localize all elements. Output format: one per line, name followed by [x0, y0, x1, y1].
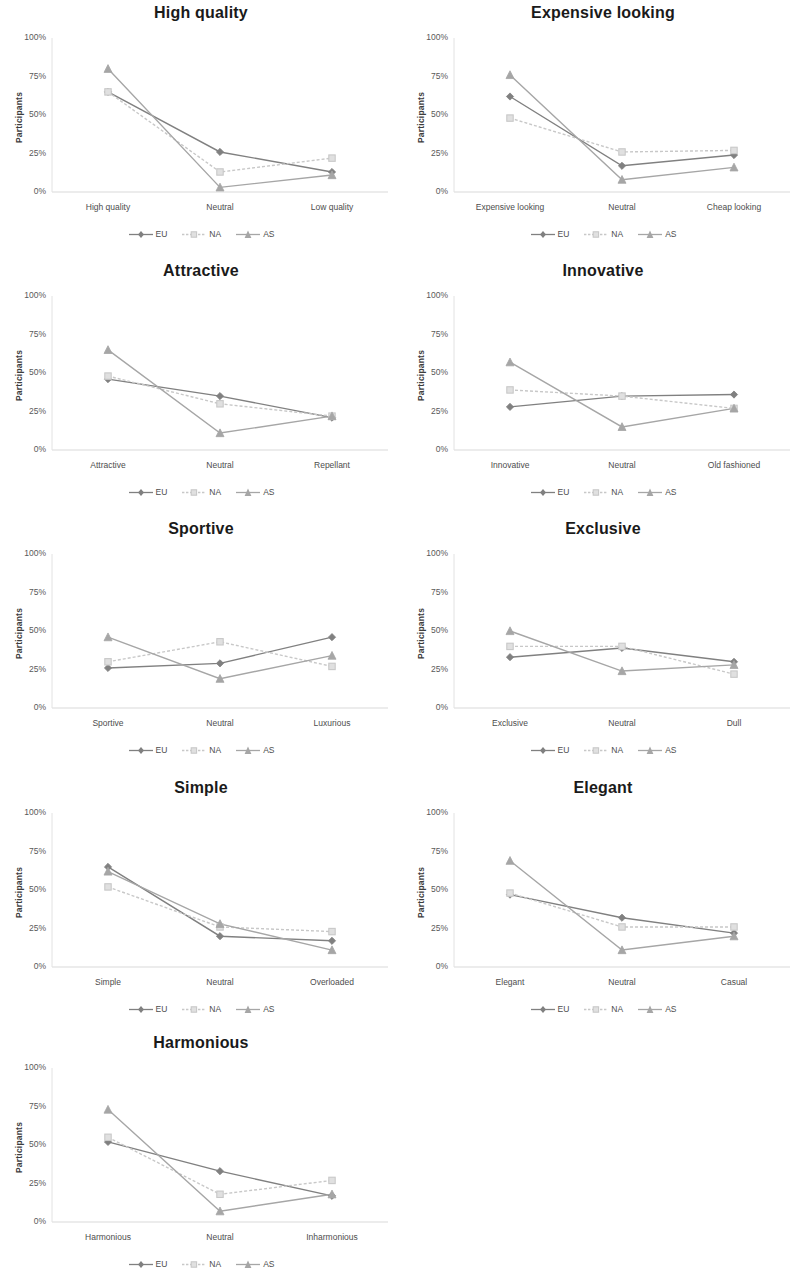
- legend-entry-eu[interactable]: EU: [128, 1003, 168, 1016]
- x-axis-tick: Old fashioned: [674, 460, 794, 470]
- x-axis-tick: Inharmonious: [272, 1232, 392, 1242]
- legend-entry-na[interactable]: NA: [583, 486, 623, 499]
- legend-marker-triangle-icon: [235, 1258, 261, 1271]
- data-marker-triangle: [506, 857, 514, 865]
- legend-marker-triangle-icon: [637, 486, 663, 499]
- legend-label: AS: [263, 746, 274, 755]
- x-axis-tick: High quality: [48, 202, 168, 212]
- legend-label: AS: [665, 1005, 676, 1014]
- legend-entry-na[interactable]: NA: [181, 486, 221, 499]
- x-axis-tick: Neutral: [160, 460, 280, 470]
- legend-marker-triangle-icon: [637, 228, 663, 241]
- x-axis-tick: Repellant: [272, 460, 392, 470]
- chart-panel-exclusive: ExclusiveParticipants0%25%50%75%100%Excl…: [402, 516, 804, 775]
- x-axis-tick: Expensive looking: [450, 202, 570, 212]
- x-axis-tick: Overloaded: [272, 977, 392, 987]
- legend-marker-diamond-icon: [530, 228, 556, 241]
- legend-entry-eu[interactable]: EU: [128, 486, 168, 499]
- chart-panel-simple: SimpleParticipants0%25%50%75%100%SimpleN…: [0, 775, 402, 1030]
- legend-label: AS: [665, 746, 676, 755]
- chart-legend: EU NA AS: [0, 1258, 402, 1271]
- x-axis-tick: Neutral: [160, 977, 280, 987]
- data-marker-triangle: [506, 627, 514, 635]
- data-marker-square: [731, 671, 737, 677]
- legend-label: EU: [156, 746, 168, 755]
- data-marker-square: [329, 663, 335, 669]
- legend-entry-eu[interactable]: EU: [530, 486, 570, 499]
- series-line-na: [510, 118, 734, 152]
- data-marker-square: [217, 1191, 223, 1197]
- data-marker-diamond: [730, 391, 737, 398]
- x-axis-tick: Neutral: [160, 718, 280, 728]
- legend-marker-diamond-icon: [128, 744, 154, 757]
- data-marker-triangle: [104, 633, 112, 641]
- x-axis-tick: Innovative: [450, 460, 570, 470]
- legend-entry-as[interactable]: AS: [235, 486, 274, 499]
- legend-entry-na[interactable]: NA: [181, 228, 221, 241]
- legend-entry-na[interactable]: NA: [181, 1258, 221, 1271]
- data-marker-diamond: [506, 654, 513, 661]
- legend-marker-square-icon: [181, 744, 207, 757]
- legend-entry-as[interactable]: AS: [235, 228, 274, 241]
- legend-entry-eu[interactable]: EU: [530, 1003, 570, 1016]
- legend-entry-as[interactable]: AS: [235, 744, 274, 757]
- legend-marker-square-icon: [181, 1258, 207, 1271]
- chart-panel-attractive: AttractiveParticipants0%25%50%75%100%Att…: [0, 258, 402, 516]
- x-axis-tick: Dull: [674, 718, 794, 728]
- data-marker-square: [217, 401, 223, 407]
- legend-marker-diamond-icon: [530, 486, 556, 499]
- legend-entry-eu[interactable]: EU: [530, 228, 570, 241]
- series-line-na: [108, 1137, 332, 1194]
- legend-entry-eu[interactable]: EU: [128, 228, 168, 241]
- x-axis-tick: Harmonious: [48, 1232, 168, 1242]
- legend-label: AS: [263, 230, 274, 239]
- data-marker-triangle: [506, 71, 514, 79]
- chart-legend: EU NA AS: [402, 228, 804, 241]
- data-marker-square: [731, 147, 737, 153]
- data-marker-diamond: [216, 660, 223, 667]
- legend-marker-square-icon: [181, 228, 207, 241]
- legend-entry-na[interactable]: NA: [583, 228, 623, 241]
- data-marker-square: [507, 890, 513, 896]
- legend-entry-as[interactable]: AS: [637, 744, 676, 757]
- data-marker-square: [105, 659, 111, 665]
- legend-label: NA: [209, 488, 221, 497]
- data-marker-square: [105, 1134, 111, 1140]
- x-axis-tick: Casual: [674, 977, 794, 987]
- legend-entry-as[interactable]: AS: [637, 228, 676, 241]
- data-marker-triangle: [328, 651, 336, 659]
- legend-entry-as[interactable]: AS: [235, 1258, 274, 1271]
- legend-entry-na[interactable]: NA: [181, 744, 221, 757]
- chart-legend: EU NA AS: [0, 228, 402, 241]
- x-axis-tick: Attractive: [48, 460, 168, 470]
- legend-entry-na[interactable]: NA: [583, 744, 623, 757]
- series-line-as: [108, 350, 332, 433]
- legend-entry-as[interactable]: AS: [235, 1003, 274, 1016]
- data-marker-square: [329, 155, 335, 161]
- legend-label: AS: [665, 488, 676, 497]
- chart-legend: EU NA AS: [0, 1003, 402, 1016]
- legend-entry-na[interactable]: NA: [583, 1003, 623, 1016]
- legend-label: NA: [611, 1005, 623, 1014]
- legend-label: NA: [209, 1260, 221, 1269]
- legend-entry-na[interactable]: NA: [181, 1003, 221, 1016]
- legend-entry-eu[interactable]: EU: [128, 1258, 168, 1271]
- x-axis-tick: Luxurious: [272, 718, 392, 728]
- x-axis-tick: Neutral: [562, 977, 682, 987]
- legend-label: NA: [611, 230, 623, 239]
- legend-entry-as[interactable]: AS: [637, 486, 676, 499]
- legend-entry-eu[interactable]: EU: [128, 744, 168, 757]
- data-marker-square: [105, 884, 111, 890]
- legend-marker-diamond-icon: [530, 1003, 556, 1016]
- data-marker-square: [619, 924, 625, 930]
- legend-marker-diamond-icon: [128, 228, 154, 241]
- legend-label: AS: [263, 488, 274, 497]
- x-axis-tick: Neutral: [562, 718, 682, 728]
- legend-entry-as[interactable]: AS: [637, 1003, 676, 1016]
- data-marker-diamond: [328, 937, 335, 944]
- x-axis-tick: Exclusive: [450, 718, 570, 728]
- legend-marker-diamond-icon: [128, 1003, 154, 1016]
- x-axis-tick: Elegant: [450, 977, 570, 987]
- legend-marker-square-icon: [583, 228, 609, 241]
- legend-entry-eu[interactable]: EU: [530, 744, 570, 757]
